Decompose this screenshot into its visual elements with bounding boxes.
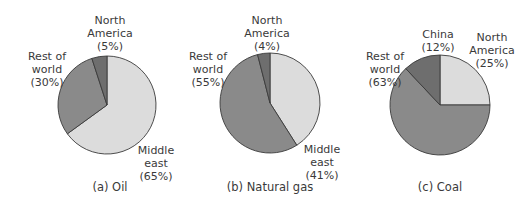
pie-chart-natural-gas: North America (4%) Rest of world (55%) M…	[175, 0, 350, 207]
pie-chart-oil: North America (5%) Rest of world (30%) M…	[0, 0, 175, 207]
label-coal-rest-of-world: Rest of world (63%)	[360, 50, 410, 89]
label-oil-north-america: North America (5%)	[80, 14, 140, 53]
label-coal-north-america: North America (25%)	[464, 31, 520, 70]
caption-oil: (a) Oil	[70, 181, 150, 194]
label-oil-middle-east: Middle east (65%)	[136, 144, 176, 183]
label-gas-middle-east: Middle east (41%)	[302, 143, 342, 182]
label-oil-rest-of-world: Rest of world (30%)	[22, 50, 72, 89]
caption-coal: (c) Coal	[410, 181, 470, 194]
pie-chart-coal: China (12%) North America (25%) Rest of …	[350, 0, 526, 207]
caption-natural-gas: (b) Natural gas	[215, 181, 325, 194]
label-gas-rest-of-world: Rest of world (55%)	[183, 50, 233, 89]
label-gas-north-america: North America (4%)	[237, 14, 297, 53]
label-coal-china: China (12%)	[418, 28, 458, 54]
